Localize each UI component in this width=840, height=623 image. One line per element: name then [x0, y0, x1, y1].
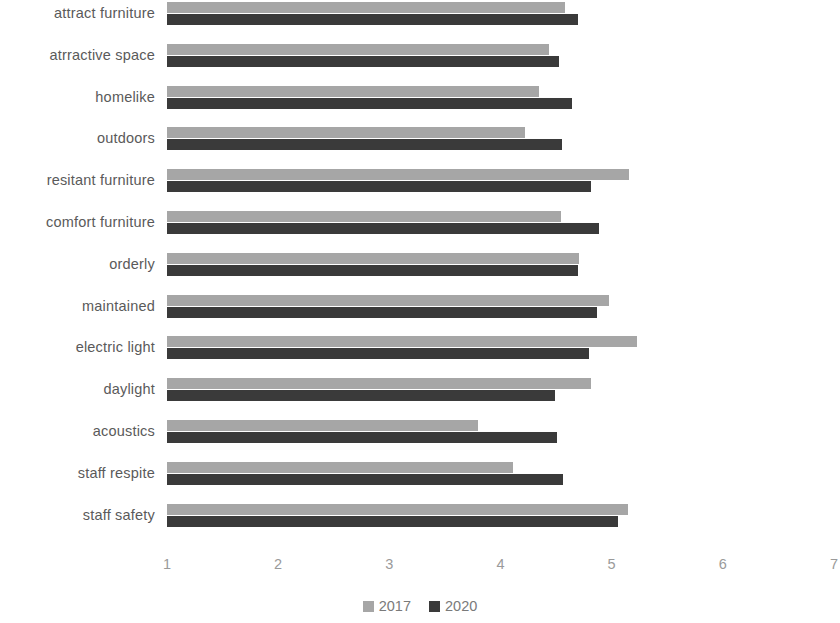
legend-item-2017[interactable]: 2017	[363, 598, 411, 614]
bar-2020	[167, 432, 557, 443]
value-axis-ticks: 1234567	[167, 556, 834, 580]
x-axis-tick-label: 2	[274, 556, 282, 572]
bar-2017	[167, 504, 628, 515]
category-label: homelike	[0, 89, 155, 105]
category-label: acoustics	[0, 423, 155, 439]
bar-group	[167, 336, 834, 362]
bar-group	[167, 253, 834, 279]
bar-2020	[167, 14, 578, 25]
category-label: maintained	[0, 298, 155, 314]
bar-chart: attract furnitureatrractive spacehomelik…	[0, 0, 840, 623]
bar-2020	[167, 307, 597, 318]
x-axis-tick-label: 3	[385, 556, 393, 572]
bar-group	[167, 420, 834, 446]
legend-item-2020[interactable]: 2020	[429, 598, 477, 614]
bar-2017	[167, 86, 539, 97]
bar-2017	[167, 378, 591, 389]
bar-2017	[167, 420, 478, 431]
legend-swatch-icon	[363, 601, 374, 612]
bar-group	[167, 127, 834, 153]
plot-area	[167, 0, 834, 545]
x-axis-tick-label: 6	[719, 556, 727, 572]
category-label: attract furniture	[0, 5, 155, 21]
bar-2020	[167, 348, 589, 359]
bar-2020	[167, 181, 591, 192]
bar-group	[167, 44, 834, 70]
chart-legend: 20172020	[0, 598, 840, 614]
bar-2017	[167, 169, 629, 180]
category-label: daylight	[0, 381, 155, 397]
bar-2020	[167, 390, 555, 401]
bar-group	[167, 86, 834, 112]
bar-2020	[167, 139, 562, 150]
bar-2017	[167, 295, 609, 306]
bar-2017	[167, 211, 561, 222]
category-label: atrractive space	[0, 47, 155, 63]
bar-group	[167, 295, 834, 321]
category-label: comfort furniture	[0, 214, 155, 230]
category-label: electric light	[0, 339, 155, 355]
x-axis-tick-label: 4	[496, 556, 504, 572]
bar-2017	[167, 127, 525, 138]
bar-2020	[167, 516, 618, 527]
category-label: outdoors	[0, 130, 155, 146]
bar-2020	[167, 56, 559, 67]
legend-label: 2017	[379, 598, 411, 614]
bar-2017	[167, 253, 579, 264]
bar-2020	[167, 474, 563, 485]
category-label: resitant furniture	[0, 172, 155, 188]
bar-2017	[167, 462, 513, 473]
bar-2017	[167, 2, 565, 13]
x-axis-tick-label: 5	[608, 556, 616, 572]
bar-2017	[167, 44, 549, 55]
legend-label: 2020	[445, 598, 477, 614]
category-axis-labels: attract furnitureatrractive spacehomelik…	[0, 0, 155, 545]
category-label: orderly	[0, 256, 155, 272]
bar-group	[167, 462, 834, 488]
x-axis-tick-label: 7	[830, 556, 838, 572]
bar-2017	[167, 336, 637, 347]
bar-group	[167, 378, 834, 404]
bar-2020	[167, 98, 572, 109]
bar-group	[167, 504, 834, 530]
x-axis-tick-label: 1	[163, 556, 171, 572]
bar-group	[167, 2, 834, 28]
bar-2020	[167, 265, 578, 276]
category-label: staff respite	[0, 465, 155, 481]
bar-group	[167, 211, 834, 237]
bar-group	[167, 169, 834, 195]
category-label: staff safety	[0, 507, 155, 523]
legend-swatch-icon	[429, 601, 440, 612]
bar-2020	[167, 223, 599, 234]
